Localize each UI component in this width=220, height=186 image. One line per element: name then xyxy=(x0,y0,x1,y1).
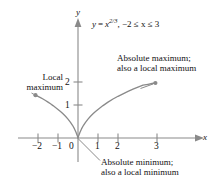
endpoint-dot-right xyxy=(153,81,157,85)
equation-lhs: y xyxy=(92,19,96,29)
equation-domain: , −2 ≤ x ≤ 3 xyxy=(117,19,159,29)
annotation-absolute-minimum: Absolute minimum; also a local minimum xyxy=(101,157,179,177)
x-axis-label: x xyxy=(203,132,207,142)
x-tick-label-2: 2 xyxy=(115,141,120,152)
x-tick-label-neg1: −1 xyxy=(52,141,62,152)
y-tick-label-2: 2 xyxy=(65,77,70,88)
y-axis-label: y xyxy=(76,7,80,17)
annotation-absolute-maximum-line2: also a local maximum xyxy=(117,63,196,73)
y-tick-label-1: 1 xyxy=(65,100,70,111)
figure-container: x y y=x2/3, −2 ≤ x ≤ 3 −2 −1 0 1 2 3 1 2… xyxy=(0,0,220,186)
annotation-absolute-minimum-line1: Absolute minimum; xyxy=(101,157,179,167)
equation-label: y=x2/3, −2 ≤ x ≤ 3 xyxy=(92,19,159,29)
annotation-local-maximum-line2: maximum xyxy=(0,82,63,92)
x-tick-label-3: 3 xyxy=(154,141,159,152)
annotation-local-maximum-line1: Local xyxy=(0,72,63,82)
annotation-absolute-maximum: Absolute maximum; also a local maximum xyxy=(117,53,196,73)
annotation-local-maximum: Local maximum xyxy=(0,72,63,92)
x-tick-label-1: 1 xyxy=(95,141,100,152)
annotation-absolute-maximum-line1: Absolute maximum; xyxy=(117,53,196,63)
x-axis xyxy=(18,135,204,142)
x-tick-label-0: 0 xyxy=(69,141,74,152)
annotation-absolute-minimum-line2: also a local minimum xyxy=(101,167,179,177)
equation-eq-sign: = xyxy=(98,19,103,29)
x-tick-label-neg2: −2 xyxy=(32,141,42,152)
endpoint-dot-left xyxy=(33,93,37,97)
